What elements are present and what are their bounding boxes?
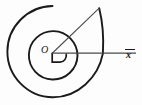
spiral-diagram-canvas (0, 0, 142, 105)
archimedean-spiral-path (7, 6, 103, 97)
spiral-curve-group (7, 6, 103, 97)
spiral-diagram-figure: O x (0, 0, 142, 105)
spiral-inner-start-marker (52, 53, 66, 62)
archimedean-spiral-inner-turn (29, 31, 78, 79)
x-axis-label: x (126, 50, 131, 60)
origin-label: O (41, 45, 48, 55)
archimedean-spiral-middle-turn (99, 8, 103, 53)
